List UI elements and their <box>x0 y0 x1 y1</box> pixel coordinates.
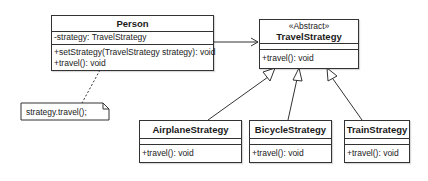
class-title: BicycleStrategy <box>250 121 331 139</box>
class-title: AirplaneStrategy <box>140 121 241 139</box>
method: +travel(): void <box>262 53 356 64</box>
note-text: strategy.travel(); <box>26 107 87 117</box>
class-title: Person <box>52 16 213 32</box>
methods-section: +travel(): void <box>260 50 358 65</box>
class-name: Person <box>52 18 213 29</box>
method: +travel(): void <box>252 148 329 159</box>
class-name: AirplaneStrategy <box>140 124 241 135</box>
method: +travel(): void <box>142 148 239 159</box>
open-arrowhead-icon <box>251 38 258 46</box>
attributes-section: -strategy: TravelStrategy <box>52 32 213 45</box>
generalization-line-train <box>333 79 362 120</box>
stereotype: «Abstract» <box>260 21 358 31</box>
class-bicycle-strategy[interactable]: BicycleStrategy +travel(): void <box>249 120 332 163</box>
attribute: -strategy: TravelStrategy <box>54 32 211 43</box>
hollow-triangle-icon <box>293 68 302 81</box>
class-title: «Abstract» TravelStrategy <box>260 20 358 44</box>
class-airplane-strategy[interactable]: AirplaneStrategy +travel(): void <box>139 120 242 163</box>
generalization-line-bicycle <box>288 79 297 120</box>
methods-section: +setStrategy(TravelStrategy strategy): v… <box>52 45 213 70</box>
hollow-triangle-icon <box>263 68 275 81</box>
methods-section: +travel(): void <box>140 145 241 160</box>
note[interactable]: strategy.travel(); <box>22 104 104 120</box>
note-link-line <box>82 70 100 103</box>
hollow-triangle-icon <box>327 68 337 81</box>
method: +travel(): void <box>347 148 407 159</box>
class-train-strategy[interactable]: TrainStrategy +travel(): void <box>344 120 410 163</box>
methods-section: +travel(): void <box>345 145 409 160</box>
class-travel-strategy[interactable]: «Abstract» TravelStrategy +travel(): voi… <box>259 19 359 69</box>
class-title: TrainStrategy <box>345 121 409 139</box>
class-name: TrainStrategy <box>345 124 409 135</box>
method: +setStrategy(TravelStrategy strategy): v… <box>54 47 211 58</box>
class-name: TravelStrategy <box>260 31 358 42</box>
methods-section: +travel(): void <box>250 145 331 160</box>
method: +travel(): void <box>54 58 211 69</box>
generalization-line-airplane <box>208 77 268 120</box>
class-person[interactable]: Person -strategy: TravelStrategy +setStr… <box>51 15 214 71</box>
class-name: BicycleStrategy <box>250 124 331 135</box>
